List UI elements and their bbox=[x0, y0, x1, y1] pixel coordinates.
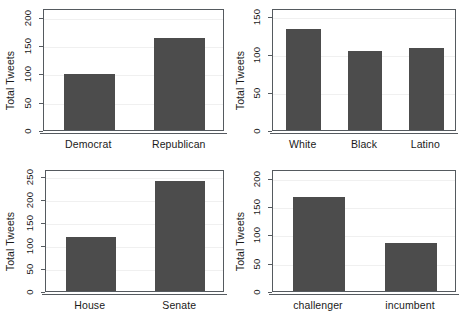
y-tick-mark bbox=[268, 235, 272, 236]
y-tick-label: 150 bbox=[251, 194, 263, 220]
y-axis-label: Total Tweets bbox=[2, 0, 18, 161]
y-tick-mark bbox=[268, 264, 272, 265]
x-axis-line bbox=[270, 133, 458, 134]
x-tick-label: Republican bbox=[134, 138, 225, 150]
y-tick-mark bbox=[41, 292, 45, 293]
chart-panel-top-right: Total Tweets050100150WhiteBlackLatino bbox=[230, 0, 460, 161]
y-tick-mark bbox=[39, 131, 43, 132]
y-tick-mark bbox=[268, 17, 272, 18]
y-tick-mark bbox=[268, 292, 272, 293]
y-tick-label: 50 bbox=[251, 251, 263, 277]
plot-area bbox=[43, 9, 224, 131]
plot-area bbox=[45, 170, 224, 292]
bar bbox=[409, 48, 443, 130]
y-tick-label: 150 bbox=[22, 33, 34, 59]
x-axis-line bbox=[40, 133, 227, 134]
y-tick-label: 150 bbox=[251, 4, 263, 30]
y-tick-label: 0 bbox=[251, 118, 263, 144]
y-tick-label: 250 bbox=[24, 164, 36, 190]
y-tick-label: 150 bbox=[24, 210, 36, 236]
y-tick-label: 100 bbox=[251, 222, 263, 248]
bar bbox=[286, 29, 320, 130]
bar bbox=[155, 181, 205, 291]
x-axis-line bbox=[42, 294, 227, 295]
bar bbox=[348, 51, 382, 130]
y-tick-label: 100 bbox=[251, 42, 263, 68]
bar bbox=[385, 243, 437, 291]
y-axis-label: Total Tweets bbox=[232, 161, 248, 322]
y-tick-label: 0 bbox=[24, 279, 36, 305]
gridline bbox=[273, 18, 455, 19]
y-tick-mark bbox=[39, 74, 43, 75]
x-tick-label: Democrat bbox=[43, 138, 134, 150]
y-tick-mark bbox=[41, 246, 45, 247]
y-tick-mark bbox=[268, 207, 272, 208]
gridline bbox=[46, 178, 223, 179]
x-tick-label: incumbent bbox=[364, 299, 456, 311]
y-tick-mark bbox=[268, 131, 272, 132]
y-tick-label: 200 bbox=[24, 187, 36, 213]
chart-panel-bottom-right: Total Tweets050100150200challengerincumb… bbox=[230, 161, 460, 322]
y-tick-mark bbox=[268, 55, 272, 56]
bar bbox=[66, 237, 116, 291]
y-tick-mark bbox=[41, 223, 45, 224]
y-tick-mark bbox=[41, 177, 45, 178]
chart-panel-bottom-left: Total Tweets050100150200250HouseSenate bbox=[0, 161, 230, 322]
y-tick-label: 100 bbox=[24, 233, 36, 259]
x-tick-label: House bbox=[45, 299, 135, 311]
y-axis-label: Total Tweets bbox=[2, 161, 18, 322]
y-tick-label: 200 bbox=[251, 166, 263, 192]
x-tick-label: challenger bbox=[272, 299, 364, 311]
x-tick-label: Latino bbox=[395, 138, 456, 150]
gridline bbox=[44, 19, 223, 20]
x-tick-label: Senate bbox=[135, 299, 225, 311]
bar bbox=[293, 197, 345, 291]
bar bbox=[154, 38, 205, 130]
x-tick-label: Black bbox=[333, 138, 394, 150]
y-tick-label: 50 bbox=[22, 90, 34, 116]
bar-chart-figure: Total Tweets050100150200DemocratRepublic… bbox=[0, 0, 460, 322]
y-tick-label: 0 bbox=[22, 118, 34, 144]
y-tick-mark bbox=[39, 103, 43, 104]
y-tick-label: 100 bbox=[22, 61, 34, 87]
y-tick-mark bbox=[39, 18, 43, 19]
bar bbox=[64, 74, 115, 130]
y-tick-label: 200 bbox=[22, 5, 34, 31]
y-tick-label: 50 bbox=[251, 80, 263, 106]
plot-area bbox=[272, 170, 456, 292]
x-axis-line bbox=[269, 294, 459, 295]
x-tick-label: White bbox=[272, 138, 333, 150]
y-tick-mark bbox=[41, 200, 45, 201]
y-tick-mark bbox=[41, 269, 45, 270]
y-tick-label: 0 bbox=[251, 279, 263, 305]
y-tick-label: 50 bbox=[24, 256, 36, 282]
y-axis-label: Total Tweets bbox=[232, 0, 248, 161]
y-tick-mark bbox=[39, 46, 43, 47]
y-tick-mark bbox=[268, 93, 272, 94]
chart-panel-top-left: Total Tweets050100150200DemocratRepublic… bbox=[0, 0, 230, 161]
y-tick-mark bbox=[268, 179, 272, 180]
plot-area bbox=[272, 9, 456, 131]
gridline bbox=[273, 180, 455, 181]
